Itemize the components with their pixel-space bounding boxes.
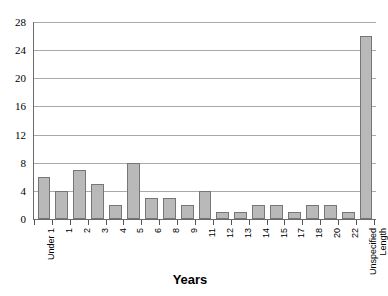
x-axis-tick-label: 18 — [315, 170, 325, 228]
x-axis-tick-label: 9 — [190, 170, 200, 228]
x-axis-title: Years — [0, 272, 380, 287]
y-tick-label: 12 — [15, 129, 26, 140]
x-axis-tick-label: 22 — [351, 170, 361, 228]
y-tick-label: 4 — [21, 185, 27, 196]
y-tick-label: 16 — [15, 101, 26, 112]
x-axis-tick-label: 12 — [226, 170, 236, 228]
x-axis-tick-label: 5 — [136, 170, 146, 228]
y-tick-label: 0 — [21, 214, 27, 225]
x-axis-tick-label: 17 — [297, 170, 307, 228]
y-tick-label: 24 — [15, 45, 26, 56]
x-axis-tick-label: 3 — [101, 170, 111, 228]
y-tick-label: 28 — [15, 17, 26, 28]
x-axis-tick-label: 2 — [83, 170, 93, 228]
x-axis-tick-label: 11 — [208, 170, 218, 228]
x-axis-tick-label: 1 — [65, 170, 75, 228]
x-axis-tick-label: 6 — [154, 170, 164, 228]
y-tick-label: 8 — [21, 157, 27, 168]
x-axis-tick-label: 14 — [262, 170, 272, 228]
y-tick-label: 20 — [15, 73, 26, 84]
x-axis-tick-label: 8 — [172, 170, 182, 228]
y-axis-labels: 0481216202428 — [0, 0, 30, 240]
tick-mark — [34, 220, 35, 225]
x-axis-tick-label: UnspecifiedLength — [369, 170, 388, 228]
x-axis-tick-label: Under 1 — [47, 170, 57, 228]
x-axis-tick-label: 13 — [244, 170, 254, 228]
x-axis-tick-label: 20 — [333, 170, 343, 228]
x-axis-tick-label: 15 — [280, 170, 290, 228]
x-axis-tick-label: 4 — [119, 170, 129, 228]
